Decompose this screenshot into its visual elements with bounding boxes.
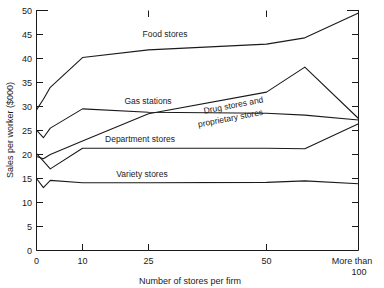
x-label-10: 10 (77, 256, 87, 266)
x-label-0: 0 (34, 256, 39, 266)
series-label-food-stores: Food stores (143, 29, 188, 39)
y-label-35: 35 (22, 78, 32, 88)
y-label-45: 45 (22, 30, 32, 40)
y-label-40: 40 (22, 54, 32, 64)
y-axis-tick-labels: 50 45 40 35 30 25 20 15 10 5 0 (22, 6, 32, 256)
line-chart: 50 45 40 35 30 25 20 15 10 5 0 0 10 25 5… (0, 0, 384, 288)
data-series-group (37, 13, 359, 188)
x-label-more-than: More than (332, 256, 373, 266)
series-line-department-stores (37, 124, 359, 169)
x-label-50: 50 (261, 256, 271, 266)
x-label-25: 25 (143, 256, 153, 266)
x-label-100: 100 (351, 267, 366, 277)
series-line-variety-stores (37, 179, 359, 188)
x-axis-title: Number of stores per firm (139, 276, 241, 286)
y-label-5: 5 (27, 222, 32, 232)
chart-container: 50 45 40 35 30 25 20 15 10 5 0 0 10 25 5… (0, 0, 384, 288)
series-line-food-stores (37, 13, 359, 110)
chart-axes (37, 10, 359, 251)
x-axis-ticks (37, 11, 267, 251)
y-label-0: 0 (27, 246, 32, 256)
series-label-department-stores: Department stores (105, 134, 175, 144)
y-axis-title: Sales per worker ($000) (5, 82, 15, 178)
series-label-gas-stations: Gas stations (124, 96, 171, 106)
y-label-25: 25 (22, 126, 32, 136)
y-axis-ticks (37, 11, 44, 227)
x-axis-tick-labels: 0 10 25 50 More than 100 (34, 256, 372, 277)
y-label-50: 50 (22, 6, 32, 16)
y-axis-ticks-right (352, 35, 359, 227)
y-label-30: 30 (22, 102, 32, 112)
y-label-10: 10 (22, 198, 32, 208)
series-label-variety-stores: Variety stores (116, 169, 167, 179)
series-annotations-group: Food storesGas stationsDrug stores andpr… (105, 29, 264, 179)
y-label-20: 20 (22, 150, 32, 160)
y-label-15: 15 (22, 174, 32, 184)
